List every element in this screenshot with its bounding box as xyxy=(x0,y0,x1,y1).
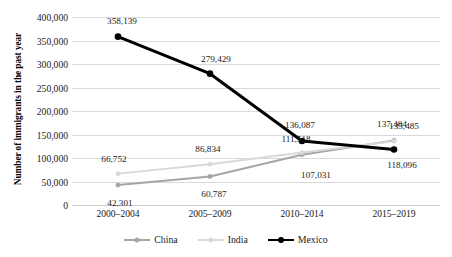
y-tick-200000: 200,000 xyxy=(6,106,68,117)
data-label-india-1: 86,834 xyxy=(195,144,220,154)
plot-area: 42,30160,787107,031137,40466,75286,83411… xyxy=(72,17,440,205)
data-label-india-0: 66,752 xyxy=(101,154,126,164)
x-tick-2000-2004: 2000–2004 xyxy=(96,208,139,219)
data-label-china-1: 60,787 xyxy=(201,189,226,199)
data-point-mexico-0 xyxy=(115,33,122,40)
series-line-mexico xyxy=(118,37,394,150)
x-axis-ticks: 2000–2004 2005–2009 2010–2014 2015–2019 xyxy=(72,208,440,226)
legend-swatch-china-icon xyxy=(124,235,150,245)
y-tick-100000: 100,000 xyxy=(6,153,68,164)
data-point-india-2 xyxy=(300,150,305,155)
chart-legend: China India Mexico xyxy=(0,234,452,245)
x-tick-2010-2014: 2010–2014 xyxy=(280,208,323,219)
data-point-india-0 xyxy=(116,171,121,176)
data-label-china-0: 42,301 xyxy=(107,198,132,208)
legend-label-china: China xyxy=(154,234,177,245)
legend-label-mexico: Mexico xyxy=(298,234,328,245)
series-layer xyxy=(72,17,440,205)
line-chart: Number of immigrants in the past year 0 … xyxy=(0,0,452,257)
data-label-mexico-2: 136,087 xyxy=(285,120,315,130)
legend-swatch-mexico-icon xyxy=(268,235,294,245)
y-tick-50000: 50,000 xyxy=(6,176,68,187)
data-point-india-1 xyxy=(208,162,213,167)
y-tick-400000: 400,000 xyxy=(6,12,68,23)
legend-label-india: India xyxy=(228,234,248,245)
y-axis-ticks: 0 50,000 100,000 150,000 200,000 250,000… xyxy=(0,17,68,205)
data-point-mexico-3 xyxy=(391,146,398,153)
data-label-mexico-3: 118,096 xyxy=(387,160,417,170)
x-tick-2005-2009: 2005–2009 xyxy=(188,208,231,219)
data-label-india-2: 111,518 xyxy=(281,134,310,144)
data-point-mexico-1 xyxy=(207,70,214,77)
data-label-mexico-1: 279,429 xyxy=(201,54,231,64)
y-tick-0: 0 xyxy=(6,200,68,211)
legend-swatch-india-icon xyxy=(198,235,224,245)
data-point-china-0 xyxy=(116,183,121,188)
data-label-china-2: 107,031 xyxy=(301,170,331,180)
x-tick-2015-2019: 2015–2019 xyxy=(372,208,415,219)
y-tick-350000: 350,000 xyxy=(6,35,68,46)
y-tick-150000: 150,000 xyxy=(6,129,68,140)
y-tick-250000: 250,000 xyxy=(6,82,68,93)
legend-item-mexico[interactable]: Mexico xyxy=(268,234,328,245)
legend-item-china[interactable]: China xyxy=(124,234,177,245)
data-label-india-3: 135,485 xyxy=(389,121,419,131)
data-label-mexico-0: 358,139 xyxy=(107,16,137,26)
legend-item-india[interactable]: India xyxy=(198,234,248,245)
data-point-india-3 xyxy=(392,139,397,144)
y-tick-300000: 300,000 xyxy=(6,59,68,70)
data-point-china-1 xyxy=(208,174,213,179)
